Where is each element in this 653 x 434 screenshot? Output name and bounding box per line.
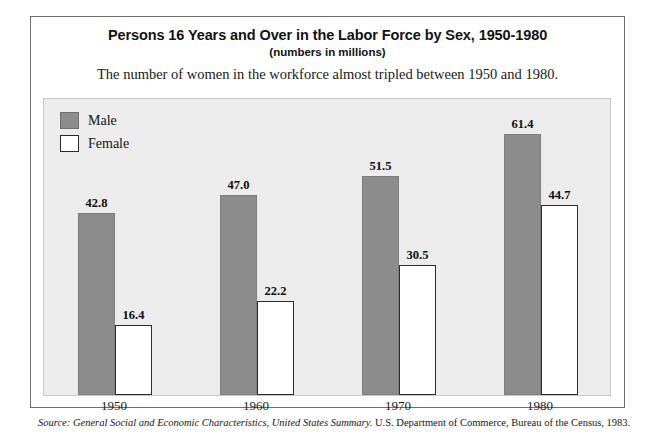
bar-value-label-female-1950: 16.4: [123, 308, 145, 323]
chart-title: Persons 16 Years and Over in the Labor F…: [30, 26, 625, 44]
source-note: Source: General Social and Economic Char…: [38, 416, 650, 429]
source-agency: U.S. Department of Commerce, Bureau of t…: [375, 417, 630, 428]
bar-value-label-female-1970: 30.5: [407, 248, 429, 263]
title-block: Persons 16 Years and Over in the Labor F…: [30, 26, 625, 60]
x-axis-tick-labels: 1950196019701980: [43, 398, 611, 416]
chart-lead-text: The number of women in the workforce alm…: [30, 65, 625, 83]
bar-male-1970[interactable]: 51.5: [362, 176, 399, 395]
x-tick-1970: 1970: [385, 398, 411, 414]
source-publication: General Social and Economic Characterist…: [73, 417, 373, 428]
x-tick-1980: 1980: [527, 398, 553, 414]
bar-female-1960[interactable]: 22.2: [257, 301, 294, 396]
bar-group-1970: 51.530.5: [328, 99, 470, 395]
bar-female-1980[interactable]: 44.7: [541, 205, 578, 395]
x-tick-1950: 1950: [101, 398, 127, 414]
bar-value-label-female-1960: 22.2: [265, 284, 287, 299]
bar-value-label-male-1980: 61.4: [512, 117, 534, 132]
bars-layer: 42.816.447.022.251.530.561.444.7: [44, 99, 610, 395]
source-prefix: Source:: [38, 417, 70, 428]
bar-group-1950: 42.816.4: [44, 99, 186, 395]
bar-value-label-male-1950: 42.8: [86, 196, 108, 211]
bar-group-1980: 61.444.7: [470, 99, 612, 395]
bar-value-label-female-1980: 44.7: [549, 188, 571, 203]
plot-area: Male Female 42.816.447.022.251.530.561.4…: [43, 98, 611, 396]
bar-value-label-male-1960: 47.0: [228, 178, 250, 193]
bar-female-1970[interactable]: 30.5: [399, 265, 436, 395]
bar-group-1960: 47.022.2: [186, 99, 328, 395]
bar-value-label-male-1970: 51.5: [370, 159, 392, 174]
bar-female-1950[interactable]: 16.4: [115, 325, 152, 395]
bar-male-1950[interactable]: 42.8: [78, 213, 115, 395]
bar-male-1960[interactable]: 47.0: [220, 195, 257, 395]
x-tick-1960: 1960: [243, 398, 269, 414]
bar-male-1980[interactable]: 61.4: [504, 134, 541, 395]
chart-units-note: (numbers in millions): [30, 45, 625, 60]
